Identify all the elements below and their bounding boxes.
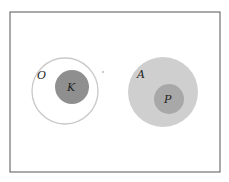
label-O: O <box>37 69 46 82</box>
label-K: K <box>66 81 76 94</box>
dot <box>102 71 104 73</box>
right-group: A P <box>128 57 198 127</box>
left-group: O K <box>32 58 104 124</box>
label-A: A <box>136 68 145 81</box>
diagram-canvas: O K A P <box>0 0 229 182</box>
label-P: P <box>163 93 172 106</box>
